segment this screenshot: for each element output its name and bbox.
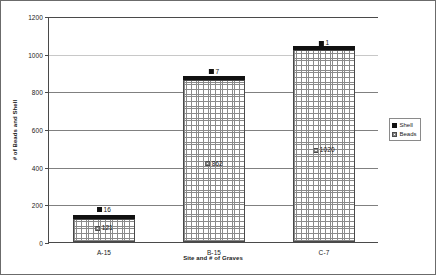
x-axis-title: Site and # of Graves [48, 255, 378, 261]
beads-value-label: 862 [205, 161, 223, 168]
legend-item[interactable]: Shell [392, 121, 417, 130]
shell-marker-icon [97, 207, 102, 212]
beads-value-label: 1020 [313, 147, 334, 154]
bar-column[interactable]: 10201 [293, 50, 355, 242]
shell-marker-icon [319, 41, 324, 46]
y-axis-tick-mark [45, 205, 49, 206]
y-axis-tick-label: 1200 [28, 14, 43, 21]
y-axis-tick-label: 600 [32, 127, 43, 134]
chart-legend: ShellBeads [389, 118, 421, 141]
legend-swatch-icon [392, 132, 397, 137]
plot-area: 020040060080010001200 12116862710201 A-1… [48, 17, 378, 243]
legend-label: Shell [400, 121, 413, 130]
shell-value-label: 16 [97, 207, 111, 214]
beads-marker-icon [205, 161, 210, 166]
legend-swatch-icon [392, 123, 397, 128]
bar-segment-shell[interactable] [183, 76, 245, 80]
y-axis-tick-label: 0 [39, 240, 43, 247]
bar-segment-shell[interactable] [73, 215, 135, 219]
y-axis-tick-mark [45, 168, 49, 169]
y-axis-tick-mark [45, 17, 49, 18]
legend-label: Beads [400, 130, 417, 139]
y-axis-tick-label: 400 [32, 164, 43, 171]
beads-value-label: 121 [95, 225, 113, 232]
bar-column[interactable]: 8627 [183, 78, 245, 242]
shell-value-label: 1 [319, 40, 329, 47]
shell-marker-icon [209, 69, 214, 74]
gridline [49, 17, 378, 18]
y-axis-tick-mark [45, 55, 49, 56]
shell-value-label: 7 [209, 69, 219, 76]
bar-column[interactable]: 12116 [73, 216, 135, 242]
y-axis-title: # of Beads and Shell [12, 100, 18, 161]
legend-item[interactable]: Beads [392, 130, 417, 139]
y-axis-tick-label: 1000 [28, 51, 43, 58]
bar-chart: # of Beads and Shell 0200400600800100012… [0, 0, 436, 275]
beads-marker-icon [95, 226, 100, 231]
y-axis-tick-mark [45, 130, 49, 131]
y-axis-tick-label: 800 [32, 89, 43, 96]
y-axis-tick-label: 200 [32, 202, 43, 209]
y-axis-tick-mark [45, 243, 49, 244]
y-axis-tick-mark [45, 92, 49, 93]
beads-marker-icon [313, 148, 318, 153]
